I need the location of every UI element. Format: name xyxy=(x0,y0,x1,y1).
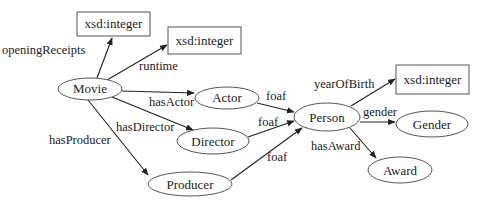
node-person: Person xyxy=(294,103,360,131)
edge-label-has-actor: hasActor xyxy=(149,95,195,109)
edge-label-runtime: runtime xyxy=(139,59,178,73)
node-label: Movie xyxy=(73,81,107,96)
node-xsd-integer-2: xsd:integer xyxy=(168,27,241,54)
node-xsd-integer-3: xsd:integer xyxy=(396,65,469,94)
node-xsd-integer-1: xsd:integer xyxy=(77,12,150,36)
node-label: Award xyxy=(383,163,418,178)
edge-label-has-director: hasDirector xyxy=(116,120,175,134)
edge-label-opening-receipts: openingReceipts xyxy=(2,43,85,57)
node-label: Person xyxy=(309,110,345,125)
node-movie: Movie xyxy=(58,78,122,100)
edge-label-year-of-birth: yearOfBirth xyxy=(314,77,375,91)
edge-opening-receipts xyxy=(97,38,112,78)
node-label: Producer xyxy=(167,177,215,192)
edge-label-foaf-producer: foaf xyxy=(267,150,288,164)
node-label: Gender xyxy=(413,117,452,132)
node-actor: Actor xyxy=(195,87,259,109)
node-director: Director xyxy=(177,128,249,154)
edge-label-foaf-director: foaf xyxy=(258,115,279,129)
edge-has-actor xyxy=(122,91,194,93)
edge-label-has-award: hasAward xyxy=(311,139,361,153)
node-producer: Producer xyxy=(148,172,232,196)
node-label: Director xyxy=(191,134,235,149)
node-label: xsd:integer xyxy=(85,16,143,31)
edge-label-foaf-actor: foaf xyxy=(266,89,287,103)
ontology-diagram: openingReceipts runtime hasActor hasDire… xyxy=(0,0,493,206)
edge-label-has-producer: hasProducer xyxy=(49,133,112,147)
node-label: Actor xyxy=(212,90,242,105)
node-gender: Gender xyxy=(396,111,468,137)
node-label: xsd:integer xyxy=(176,33,234,48)
edge-foaf-actor xyxy=(257,103,294,112)
edge-label-gender: gender xyxy=(363,105,398,119)
node-label: xsd:integer xyxy=(404,72,462,87)
node-award: Award xyxy=(368,157,432,183)
